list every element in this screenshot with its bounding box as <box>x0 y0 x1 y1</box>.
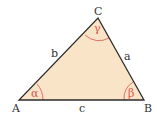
vertex-label-c: C <box>94 5 102 18</box>
angle-label-beta: β <box>128 87 134 100</box>
angle-label-gamma: γ <box>94 22 101 35</box>
triangle-diagram: A B C a b c α β γ <box>0 0 157 118</box>
side-label-a: a <box>124 50 131 63</box>
vertex-label-b: B <box>144 102 152 115</box>
vertex-label-a: A <box>11 102 21 115</box>
side-label-b: b <box>51 47 58 60</box>
side-label-c: c <box>79 102 85 115</box>
angle-label-alpha: α <box>31 87 39 100</box>
